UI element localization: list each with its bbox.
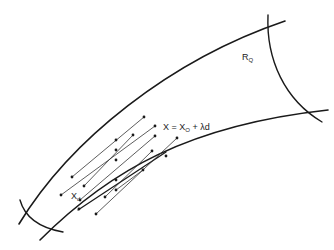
left-boundary-arc bbox=[20, 200, 63, 232]
region-label-sub: Q bbox=[249, 57, 254, 63]
equation-x: X bbox=[163, 122, 169, 132]
equation-plus: + bbox=[193, 122, 198, 132]
region-label-main: R bbox=[242, 52, 249, 62]
region-label: RQ bbox=[242, 52, 253, 62]
right-boundary-arc bbox=[268, 15, 322, 122]
equation-x0-sub: O bbox=[185, 127, 190, 133]
equation-label: X = XO + λd bbox=[163, 122, 210, 132]
equation-lambda-d: λd bbox=[200, 122, 210, 132]
start-point-label: Xd bbox=[71, 191, 80, 201]
start-point-sub: d bbox=[77, 196, 80, 202]
diagram-canvas: RQ X = XO + λd Xd bbox=[0, 0, 334, 250]
equation-equals: = bbox=[172, 122, 177, 132]
